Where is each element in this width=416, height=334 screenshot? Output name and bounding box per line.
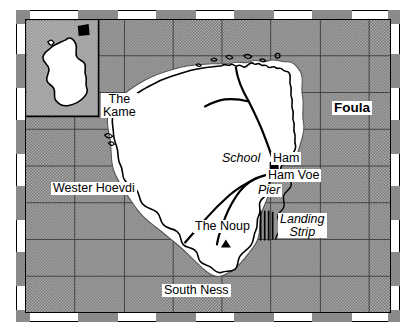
- label-the-kame: The Kame: [101, 93, 138, 118]
- foula-map: Foula The Kame Wester Hoevdi School Ham …: [0, 0, 416, 334]
- label-ham: Ham: [271, 152, 301, 165]
- label-the-kame-line2: Kame: [103, 106, 136, 119]
- label-school: School: [220, 152, 262, 165]
- label-the-kame-line1: The: [103, 93, 136, 106]
- label-foula: Foula: [332, 101, 372, 115]
- label-the-noup: The Noup: [193, 220, 252, 233]
- label-pier: Pier: [256, 184, 282, 197]
- label-landing-strip: Landing Strip: [278, 213, 327, 238]
- label-wester-hoevdi-text: Wester Hoevdi: [53, 181, 135, 195]
- map-canvas: [26, 20, 390, 312]
- label-the-noup-text: The Noup: [195, 219, 250, 233]
- label-ham-text: Ham: [273, 151, 299, 165]
- map-body: Foula The Kame Wester Hoevdi School Ham …: [25, 19, 391, 313]
- label-wester-hoevdi: Wester Hoevdi: [51, 182, 137, 195]
- locator-marker: [78, 24, 90, 36]
- frame-band-right: [391, 10, 400, 322]
- label-ham-voe: Ham Voe: [266, 169, 321, 182]
- frame-band-top: [16, 10, 400, 19]
- label-south-ness: South Ness: [162, 284, 231, 297]
- label-pier-text: Pier: [258, 183, 280, 197]
- frame-band-bottom: [16, 313, 400, 322]
- label-ham-voe-text: Ham Voe: [268, 168, 319, 182]
- great-britain-inset: [26, 20, 99, 117]
- label-foula-text: Foula: [334, 100, 370, 115]
- label-landing-strip-line1: Landing: [280, 213, 325, 226]
- label-school-text: School: [222, 151, 260, 165]
- frame-band-left: [16, 10, 25, 322]
- label-landing-strip-line2: Strip: [280, 226, 325, 239]
- label-south-ness-text: South Ness: [164, 283, 229, 297]
